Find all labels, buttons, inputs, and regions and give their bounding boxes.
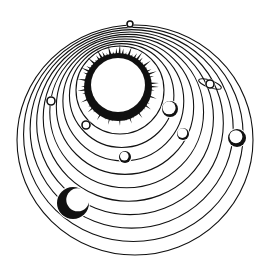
tiny-inner-planet-icon — [81, 120, 91, 130]
solar-system-svg — [0, 0, 269, 277]
sun-disc — [91, 58, 145, 112]
solar-system-illustration — [0, 0, 269, 277]
left-small-planet-icon — [46, 96, 56, 106]
large-planet-icon — [56, 186, 90, 220]
planet-lower-center-icon — [118, 150, 132, 164]
top-outer-planet-icon — [126, 20, 134, 28]
planet-far-right-icon — [227, 128, 247, 148]
medium-planet-right-icon — [161, 100, 179, 118]
sun-icon — [77, 44, 159, 126]
small-planet-right-icon — [176, 127, 190, 141]
